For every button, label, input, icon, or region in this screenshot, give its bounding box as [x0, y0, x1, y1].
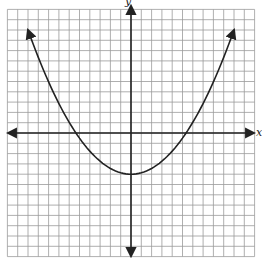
- y-axis-label: y: [125, 0, 131, 8]
- x-axis-label: x: [256, 126, 262, 139]
- coordinate-plane: [0, 0, 262, 260]
